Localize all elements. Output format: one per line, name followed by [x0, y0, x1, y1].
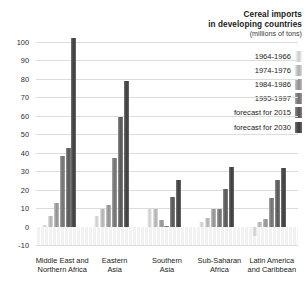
bar[interactable] — [106, 205, 111, 226]
bar-group — [88, 42, 140, 245]
plot-area — [36, 42, 298, 245]
bar[interactable] — [281, 168, 286, 226]
bar[interactable] — [100, 209, 105, 227]
y-tick--10: -10 — [18, 241, 29, 250]
bar[interactable] — [71, 38, 76, 226]
bar-group — [246, 42, 298, 245]
bar[interactable] — [153, 209, 158, 227]
y-tick-60: 60 — [21, 111, 29, 120]
bar[interactable] — [257, 222, 262, 227]
y-tick-90: 90 — [21, 56, 29, 65]
x-axis-label-line-2: and Caribbean — [240, 265, 304, 274]
bar-group — [193, 42, 245, 245]
bar[interactable] — [269, 198, 274, 226]
bar[interactable] — [118, 117, 123, 227]
bar[interactable] — [217, 209, 222, 227]
bar[interactable] — [48, 216, 53, 226]
bar[interactable] — [229, 167, 234, 226]
y-tick-80: 80 — [21, 74, 29, 83]
bar[interactable] — [42, 225, 47, 227]
bar[interactable] — [170, 197, 175, 227]
y-tick-30: 30 — [21, 167, 29, 176]
bar[interactable] — [94, 216, 99, 226]
x-axis: Middle East andNorthern AfricaEasternAsi… — [36, 256, 298, 284]
bar[interactable] — [211, 209, 216, 227]
title-line-1: Cereal imports — [132, 10, 302, 20]
chart-container: Cereal imports in developing countries (… — [0, 0, 308, 287]
bar[interactable] — [66, 148, 71, 226]
y-tick-0: 0 — [25, 222, 29, 231]
title-units: (millions of tons) — [132, 30, 302, 38]
y-tick-20: 20 — [21, 185, 29, 194]
y-tick-10: 10 — [21, 204, 29, 213]
bar[interactable] — [112, 158, 117, 226]
y-tick-50: 50 — [21, 130, 29, 139]
bar[interactable] — [124, 81, 129, 227]
y-tick-40: 40 — [21, 148, 29, 157]
bar[interactable] — [176, 180, 181, 227]
gridline--10 — [36, 245, 298, 246]
bar[interactable] — [199, 222, 204, 226]
bar[interactable] — [205, 218, 210, 227]
x-axis-label-line-1: Latin America — [240, 256, 304, 265]
bar[interactable] — [263, 219, 268, 226]
x-axis-label: Latin Americaand Caribbean — [240, 256, 304, 275]
y-axis: 1009080706050403020100-10 — [0, 42, 33, 245]
chart-title: Cereal imports in developing countries (… — [132, 10, 302, 38]
bar[interactable] — [164, 226, 169, 227]
y-tick-100: 100 — [17, 38, 29, 47]
y-tick-70: 70 — [21, 93, 29, 102]
bar-group — [141, 42, 193, 245]
bar[interactable] — [159, 220, 164, 226]
bar-series-container — [36, 42, 298, 245]
title-line-2: in developing countries — [132, 20, 302, 30]
bar[interactable] — [223, 189, 228, 227]
bar[interactable] — [147, 209, 152, 227]
bar[interactable] — [60, 156, 65, 226]
bar[interactable] — [54, 203, 59, 226]
bar[interactable] — [275, 180, 280, 226]
bar-group — [36, 42, 88, 245]
bar[interactable] — [252, 227, 257, 236]
